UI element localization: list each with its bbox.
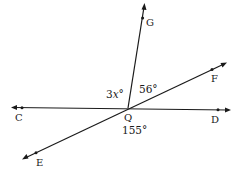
label-c: C bbox=[15, 112, 23, 123]
angle-cqg-label: 3x° bbox=[106, 88, 124, 100]
arrowhead-upper-right-icon bbox=[221, 63, 228, 68]
arrowhead-right-icon bbox=[225, 108, 231, 113]
line-cd bbox=[11, 105, 231, 113]
point-c bbox=[21, 106, 24, 109]
arrowhead-up-icon bbox=[142, 3, 147, 10]
angle-cqg-coef: 3 bbox=[106, 88, 113, 100]
label-e: E bbox=[36, 157, 43, 168]
label-g: G bbox=[146, 17, 154, 28]
angle-eqd-label: 155° bbox=[122, 124, 147, 136]
geometry-diagram: G F C D E Q 3x° 56° 155° bbox=[0, 0, 242, 171]
arrowhead-left-icon bbox=[11, 105, 17, 110]
angle-cqg-deg: ° bbox=[119, 88, 124, 100]
point-f bbox=[211, 68, 214, 71]
label-q: Q bbox=[124, 112, 132, 123]
arrowhead-lower-left-icon bbox=[22, 154, 29, 160]
angle-gqf-label: 56° bbox=[139, 83, 158, 95]
point-e bbox=[35, 151, 38, 154]
line-ef bbox=[22, 63, 227, 160]
point-g bbox=[141, 17, 144, 20]
label-d: D bbox=[211, 114, 219, 125]
label-f: F bbox=[211, 73, 218, 84]
point-d bbox=[217, 108, 220, 111]
